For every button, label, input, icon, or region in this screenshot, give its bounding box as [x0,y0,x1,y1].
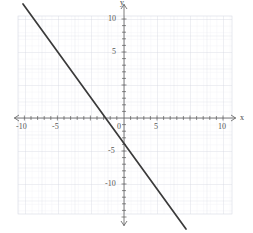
x-tick-label-neg5: -5 [52,122,59,131]
y-tick-label-neg5: -5 [108,146,115,155]
x-axis-label: x [240,113,244,122]
x-tick-label-5: 5 [154,122,158,131]
x-tick-label-neg10: -10 [16,122,27,131]
y-tick-label-10: 10 [108,14,116,23]
graph-figure: -10 -5 0 5 10 10 5 -5 -10 x y [0,0,253,233]
y-tick-label-5: 5 [112,47,116,56]
coordinate-plane [0,0,253,233]
y-axis-label: y [120,0,124,7]
x-tick-label-0: 0 [117,122,121,131]
y-tick-label-neg10: -10 [105,179,116,188]
x-tick-label-10: 10 [218,122,226,131]
